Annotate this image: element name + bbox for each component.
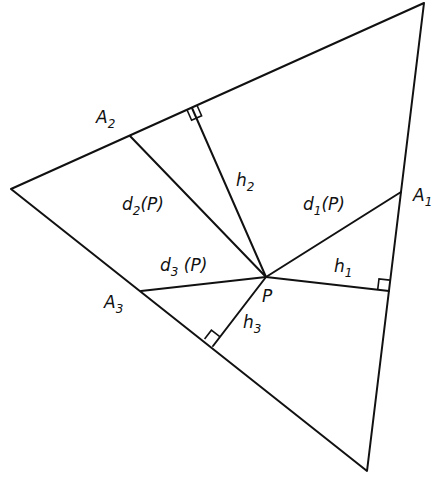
label-d3: d3 (P) bbox=[160, 255, 207, 279]
label-P: P bbox=[262, 286, 273, 306]
triangle-diagram: A2 A1 A3 P h2 h1 h3 d1(P) d2(P) d3 (P) bbox=[0, 0, 433, 481]
label-A2: A2 bbox=[95, 107, 115, 131]
label-h2: h2 bbox=[236, 170, 254, 194]
segment-h2 bbox=[192, 108, 266, 277]
segment-d3 bbox=[141, 277, 266, 291]
label-d1: d1(P) bbox=[303, 194, 345, 218]
right-angle-marker-h1 bbox=[378, 279, 390, 290]
label-d2: d2(P) bbox=[122, 194, 164, 218]
diagram-svg: A2 A1 A3 P h2 h1 h3 d1(P) d2(P) d3 (P) bbox=[0, 0, 433, 481]
right-angle-marker-h3 bbox=[205, 330, 221, 339]
label-h1: h1 bbox=[334, 256, 352, 280]
segment-h1 bbox=[266, 277, 389, 291]
label-A1: A1 bbox=[412, 185, 432, 209]
triangle-outline bbox=[11, 3, 424, 471]
label-A3: A3 bbox=[103, 292, 123, 316]
label-h3: h3 bbox=[243, 312, 261, 336]
